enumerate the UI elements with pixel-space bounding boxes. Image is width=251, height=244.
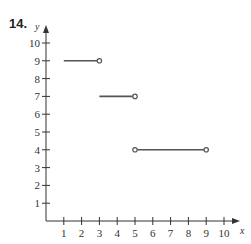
y-tick-label: 8 (35, 73, 41, 85)
y-tick-label: 9 (35, 55, 41, 67)
x-tick-label: 8 (186, 227, 192, 239)
y-tick-label: 2 (35, 179, 41, 191)
x-tick-label: 6 (150, 227, 156, 239)
open-circle-icon (97, 59, 101, 63)
x-tick-label: 3 (97, 227, 103, 239)
y-tick-label: 1 (35, 197, 41, 209)
x-tick-label: 4 (114, 227, 120, 239)
y-tick-label: 3 (35, 162, 41, 174)
x-axis-arrow-icon (232, 218, 240, 224)
x-tick-label: 1 (61, 227, 67, 239)
y-tick-label: 10 (29, 37, 41, 49)
y-axis-arrow-icon (43, 25, 49, 33)
x-tick-label: 9 (203, 227, 209, 239)
x-axis-label: x (239, 225, 245, 236)
x-tick-label: 5 (132, 227, 138, 239)
y-tick-label: 7 (35, 90, 41, 102)
x-tick-label: 10 (219, 227, 231, 239)
y-tick-label: 5 (35, 126, 41, 138)
open-circle-icon (133, 94, 137, 98)
x-tick-label: 7 (168, 227, 174, 239)
y-axis-label: y (34, 21, 40, 32)
open-circle-icon (133, 148, 137, 152)
y-tick-label: 4 (35, 144, 41, 156)
step-function-graph: 14. xy1234567891012345678910 (0, 0, 251, 244)
x-tick-label: 2 (79, 227, 85, 239)
y-tick-label: 6 (35, 108, 41, 120)
problem-number: 14. (9, 16, 27, 31)
open-circle-icon (204, 148, 208, 152)
plot-area: xy1234567891012345678910 (0, 0, 251, 244)
